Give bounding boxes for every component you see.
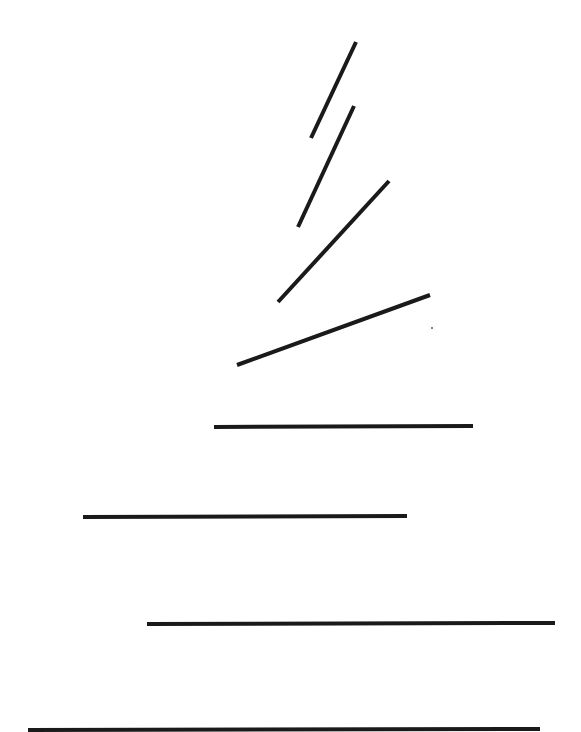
segment-8 [28, 729, 540, 730]
line-diagram [0, 0, 581, 732]
stray-dot [431, 327, 433, 329]
dots [431, 327, 433, 329]
segment-6 [83, 516, 407, 517]
segment-7 [147, 623, 555, 624]
segment-5 [214, 426, 473, 427]
